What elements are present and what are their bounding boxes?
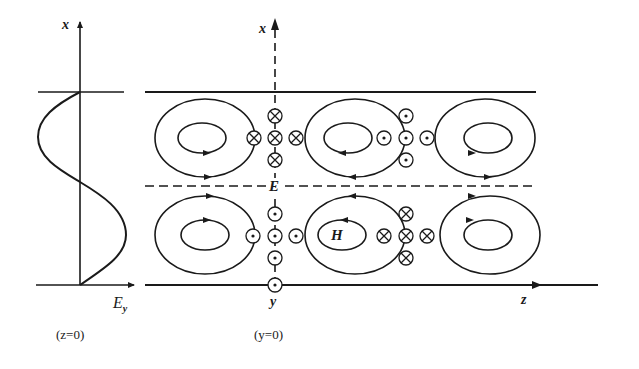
cross-symbol bbox=[399, 207, 413, 221]
dot-symbol bbox=[268, 207, 282, 221]
left-x-axis-label: x bbox=[62, 18, 69, 32]
dot-symbol bbox=[268, 229, 282, 243]
dot-symbol bbox=[420, 131, 434, 145]
ey-label-sub: y bbox=[123, 303, 127, 314]
ey-label: Ey bbox=[113, 295, 127, 314]
cross-symbol bbox=[399, 229, 413, 243]
top-row-loops bbox=[155, 99, 535, 177]
y-label: y bbox=[270, 295, 276, 309]
dot-symbol bbox=[246, 229, 260, 243]
z-arrow-head bbox=[532, 281, 542, 289]
cross-symbol bbox=[289, 131, 303, 145]
waveguide-field-diagram: x Ey (z=0) x E H y z (y=0) bbox=[0, 0, 639, 369]
center-x-axis-label: x bbox=[259, 22, 266, 36]
cross-symbol bbox=[399, 251, 413, 265]
bottom-row-loops bbox=[155, 196, 540, 274]
right-caption: (y=0) bbox=[254, 328, 283, 341]
cross-symbol bbox=[420, 229, 434, 243]
dot-symbol bbox=[268, 251, 282, 265]
cross-symbol bbox=[377, 229, 391, 243]
dot-symbol bbox=[399, 131, 413, 145]
cross-symbol bbox=[247, 131, 261, 145]
left-panel bbox=[36, 22, 134, 285]
dot-symbol bbox=[399, 109, 413, 123]
right-panel bbox=[145, 18, 598, 289]
diagram-drawing bbox=[0, 0, 639, 369]
dot-symbol bbox=[268, 278, 282, 292]
ey-sine-curve bbox=[38, 92, 126, 285]
z-axis-label: z bbox=[521, 293, 526, 307]
midline-e-label: E bbox=[269, 179, 279, 194]
h-field-label: H bbox=[331, 228, 343, 243]
cross-symbol bbox=[268, 131, 282, 145]
left-caption: (z=0) bbox=[56, 328, 84, 341]
dot-symbol bbox=[399, 153, 413, 167]
x-arrow-head bbox=[271, 18, 279, 30]
cross-symbol bbox=[268, 153, 282, 167]
dot-symbol bbox=[377, 131, 391, 145]
ey-label-main: E bbox=[113, 294, 123, 311]
cross-symbol bbox=[268, 109, 282, 123]
dot-symbol bbox=[289, 229, 303, 243]
